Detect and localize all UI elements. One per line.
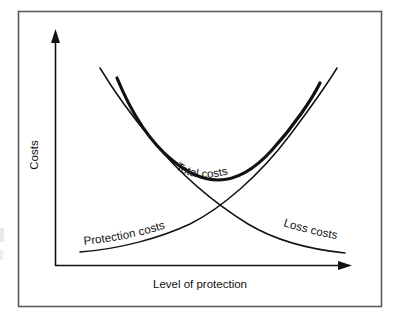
figure-container: Total costs Protection costs Loss costs … <box>0 0 399 319</box>
scan-edge-artifact-left-lower <box>0 250 3 260</box>
figure-background <box>0 0 399 319</box>
scan-edge-artifact-left <box>0 228 4 242</box>
x-axis-label: Level of protection <box>153 278 247 290</box>
y-axis-label: Costs <box>28 140 40 170</box>
